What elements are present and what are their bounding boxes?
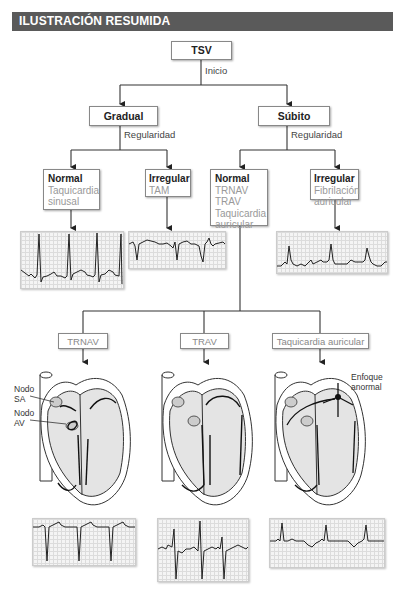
ecg-avnrt: [32, 518, 136, 566]
label-pointers: [0, 0, 403, 594]
ecg-atrial-tachycardia: [269, 518, 385, 568]
label-ectopic-focus: Enfoqueanormal: [351, 372, 383, 392]
ecg-avrt: [157, 518, 249, 582]
